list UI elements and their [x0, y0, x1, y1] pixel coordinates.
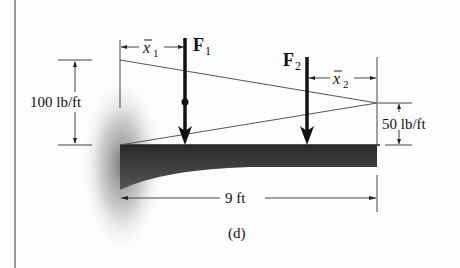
x2-label: x	[332, 70, 340, 87]
f1-label: F	[193, 35, 204, 55]
dim-50-lbft: 50 lb/ft	[382, 104, 427, 144]
span-label: 9 ft	[225, 190, 246, 206]
right-intensity-label: 50 lb/ft	[382, 116, 427, 132]
distributed-load-diagram: 100 lb/ft 50 lb/ft x 1 x 2 F 1	[0, 0, 460, 268]
f2-label: F	[283, 50, 294, 70]
x1-subscript: 1	[153, 47, 159, 59]
dim-100-lbft: 100 lb/ft	[30, 61, 82, 144]
f1-subscript: 1	[205, 44, 211, 58]
figure-caption: (d)	[228, 225, 246, 242]
f2-subscript: 2	[295, 59, 301, 73]
x2-subscript: 2	[343, 78, 349, 90]
dim-x2: x 2	[309, 70, 376, 90]
left-intensity-label: 100 lb/ft	[30, 94, 82, 110]
force-f2-arrow: F 2	[283, 50, 314, 145]
force-f1-arrow: F 1	[178, 35, 211, 145]
dim-x1: x 1	[121, 39, 184, 59]
x1-label: x	[142, 39, 150, 56]
